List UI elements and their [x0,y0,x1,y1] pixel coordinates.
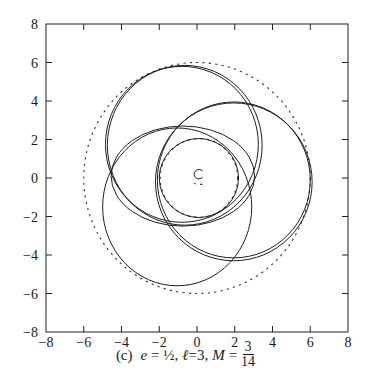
central-dotted-arc [194,183,204,185]
y-tick-label: −2 [23,210,38,225]
orbit-loop [105,66,258,222]
y-tick-label: 4 [31,94,38,109]
orbit-loop [155,103,312,261]
caption-e-value: ½ [163,347,174,363]
caption-e-symbol: e [141,347,148,363]
y-axis-tick-labels: 86420−2−4−6−8 [23,17,38,340]
caption-m-denominator: 14 [241,355,255,369]
central-arc [194,169,202,178]
caption-equals: = [229,346,237,364]
caption-m-numerator: 3 [243,340,254,355]
dashed-bound-circle [160,139,237,218]
orbit-curves [103,65,313,285]
bounding-circles [84,63,311,294]
y-tick-label: 8 [31,17,38,32]
caption-m-symbol: M [212,346,225,364]
y-tick-label: −6 [23,287,38,302]
caption-l-value: 3 [197,347,205,363]
orbit-loop [159,139,238,218]
figure-caption: (c) e = ½, ℓ=3, M = 3 14 [0,340,371,369]
y-tick-label: 6 [31,56,38,71]
orbit-loop [103,128,252,286]
y-tick-label: 2 [31,133,38,148]
y-tick-label: 0 [31,171,38,186]
caption-panel-label: (c) [116,346,133,364]
caption-equals: = [151,347,159,363]
caption-equals: = [188,347,196,363]
orbit-loop [111,126,254,226]
y-tick-label: −8 [23,325,38,340]
orbit-loop [157,102,310,258]
orbit-plot: −8−6−4−202468 86420−2−4−6−8 [0,0,371,384]
caption-m-fraction: 3 14 [241,340,255,369]
y-tick-label: −4 [23,248,38,263]
